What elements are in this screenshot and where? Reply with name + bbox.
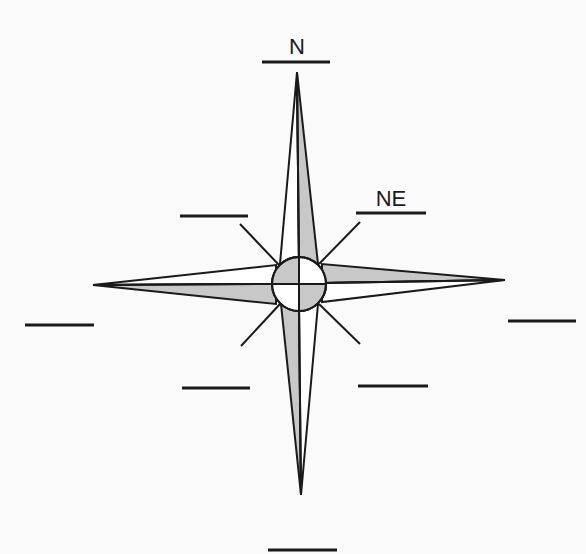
north-arm (280, 72, 318, 264)
east-arm (322, 264, 505, 302)
label-ne: NE (376, 186, 407, 211)
label-n: N (289, 34, 305, 59)
tick-se (319, 304, 360, 344)
tick-sw (241, 304, 280, 346)
compass-rose-diagram: N NE (0, 0, 586, 554)
center-circle (272, 257, 326, 311)
tick-ne (319, 222, 360, 264)
south-arm (281, 304, 318, 495)
west-arm (93, 265, 276, 304)
tick-nw (240, 224, 279, 265)
